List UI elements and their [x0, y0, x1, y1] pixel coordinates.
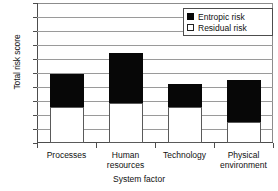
y-tick-mark [33, 73, 37, 74]
bar-segment-residual-risk [168, 107, 202, 143]
legend-swatch-filled-icon [187, 13, 194, 20]
legend-label: Residual risk [198, 23, 247, 33]
x-tick-mark [214, 143, 215, 148]
bar-group [109, 3, 143, 143]
x-cat-label-line: Human [92, 150, 159, 160]
y-tick-mark [33, 31, 37, 32]
y-tick-mark [33, 17, 37, 18]
bar-segment-residual-risk [227, 122, 261, 143]
y-tick-mark [33, 87, 37, 88]
x-tick-mark [273, 143, 274, 148]
bar-segment-entropic-risk [168, 84, 202, 108]
risk-score-bar-chart: Total risk score 02468101214161820 Proce… [0, 0, 278, 191]
x-category-label: Physicalenvironment [210, 150, 277, 170]
bar-segment-entropic-risk [227, 80, 261, 122]
x-category-label: Humanresources [92, 150, 159, 170]
y-tick-mark [33, 45, 37, 46]
legend-item: Entropic risk [187, 11, 269, 22]
y-tick-mark [33, 3, 37, 4]
bar-segment-entropic-risk [50, 74, 84, 107]
y-tick-mark [33, 101, 37, 102]
x-cat-label-line: Technology [151, 150, 218, 160]
y-axis-title: Total risk score [12, 14, 22, 110]
x-category-label: Technology [151, 150, 218, 160]
bar-group [50, 3, 84, 143]
y-tick-mark [33, 115, 37, 116]
legend-swatch-hollow-icon [187, 24, 194, 31]
y-tick-mark [33, 59, 37, 60]
x-category-label: Processes [33, 150, 100, 160]
x-tick-mark [155, 143, 156, 148]
x-tick-mark [37, 143, 38, 148]
legend-label: Entropic risk [198, 12, 245, 22]
bar-segment-entropic-risk [109, 53, 143, 103]
bar-segment-residual-risk [50, 107, 84, 143]
x-tick-mark [96, 143, 97, 148]
bar-segment-residual-risk [109, 103, 143, 143]
x-cat-label-line: environment [210, 160, 277, 170]
x-cat-label-line: Processes [33, 150, 100, 160]
chart-legend: Entropic riskResidual risk [183, 8, 273, 36]
x-axis-title: System factor [0, 174, 278, 184]
legend-item: Residual risk [187, 22, 269, 33]
x-cat-label-line: Physical [210, 150, 277, 160]
y-tick-mark [33, 129, 37, 130]
x-cat-label-line: resources [92, 160, 159, 170]
